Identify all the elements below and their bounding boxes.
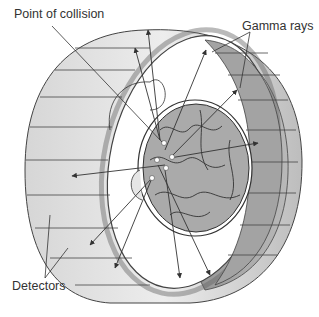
point-of-collision-label: Point of collision (14, 7, 104, 21)
detectors-label: Detectors (12, 279, 66, 293)
pet-scanner-diagram (0, 0, 319, 317)
gamma-rays-label: Gamma rays (242, 19, 314, 33)
